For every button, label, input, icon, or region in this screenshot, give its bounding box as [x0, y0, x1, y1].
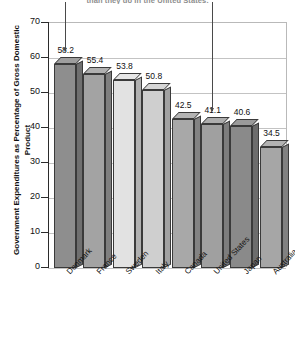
- y-tick-label: 0: [14, 261, 40, 271]
- arrow-united-states-icon: [212, 2, 213, 111]
- y-tick-label: 10: [14, 226, 40, 236]
- bar-value-label: 42.5: [175, 100, 192, 110]
- bar-column: 55.4: [83, 67, 105, 268]
- bar-column: 41.1: [201, 117, 223, 268]
- arrow-denmark-icon: [65, 2, 66, 51]
- bar-side-face: [194, 116, 201, 268]
- bar-series: 58.255.453.850.842.541.140.634.5: [48, 22, 287, 268]
- bar-side-face: [105, 71, 112, 268]
- bar-front-face: [113, 80, 135, 268]
- y-tick-label: 30: [14, 156, 40, 166]
- bar-column: 58.2: [54, 57, 76, 268]
- bar-column: 34.5: [260, 140, 282, 268]
- chart-title-text: than they do in the United States.: [0, 0, 295, 4]
- bar-value-label: 55.4: [87, 55, 104, 65]
- bar-side-face: [223, 121, 230, 268]
- bar-value-label: 40.6: [234, 107, 251, 117]
- bar-value-label: 53.8: [116, 61, 133, 71]
- bar-column: 42.5: [172, 112, 194, 268]
- x-axis-category-labels: DenmarkFranceSwedenItalyCanadaUnited Sta…: [48, 270, 295, 344]
- bar-column: 50.8: [142, 83, 164, 268]
- y-tick-label: 20: [14, 191, 40, 201]
- bar-front-face: [201, 124, 223, 268]
- bar-front-face: [142, 90, 164, 268]
- bar-front-face: [172, 119, 194, 268]
- chart-title-truncated: than they do in the United States.: [0, 0, 295, 4]
- bar-side-face: [135, 76, 142, 268]
- bar-side-face: [252, 122, 259, 268]
- bar-side-face: [282, 144, 289, 268]
- y-tick-label: 60: [14, 51, 40, 61]
- bar-side-face: [164, 87, 171, 268]
- bar-column: 53.8: [113, 73, 135, 268]
- y-tick-label: 70: [14, 16, 40, 26]
- y-tick-label: 40: [14, 121, 40, 131]
- bar-front-face: [260, 147, 282, 268]
- chart-root: than they do in the United States. Gover…: [0, 0, 295, 344]
- bar-value-label: 50.8: [146, 71, 163, 81]
- bar-value-label: 34.5: [263, 128, 280, 138]
- bar-side-face: [76, 61, 83, 268]
- bar-front-face: [54, 64, 76, 268]
- y-tick-label: 50: [14, 86, 40, 96]
- bar-front-face: [83, 74, 105, 268]
